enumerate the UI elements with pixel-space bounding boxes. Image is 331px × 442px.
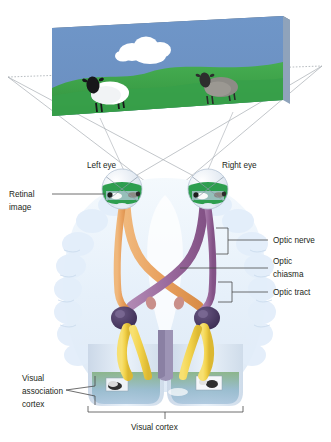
label-optic-tract: Optic tract (273, 288, 311, 297)
label-visual-association-3: cortex (22, 400, 44, 409)
label-visual-association-2: association (22, 387, 63, 396)
label-right-eye: Right eye (222, 161, 257, 170)
label-optic-nerve: Optic nerve (273, 236, 315, 245)
leader-visual-cortex (88, 406, 243, 419)
label-retinal-image-1: Retinal (9, 190, 35, 199)
label-optic-chiasma-2: chiasma (273, 270, 304, 279)
label-retinal-image-2: image (9, 203, 32, 212)
cortex-image-left (106, 378, 128, 391)
label-optic-chiasma-1: Optic (273, 257, 292, 266)
label-left-eye: Left eye (87, 161, 117, 170)
visual-scene-panel (52, 16, 290, 120)
diagram-canvas: Left eye Right eye Retinal image Optic n… (0, 0, 331, 442)
label-visual-association-1: Visual (22, 374, 44, 383)
label-visual-cortex: Visual cortex (131, 423, 178, 432)
